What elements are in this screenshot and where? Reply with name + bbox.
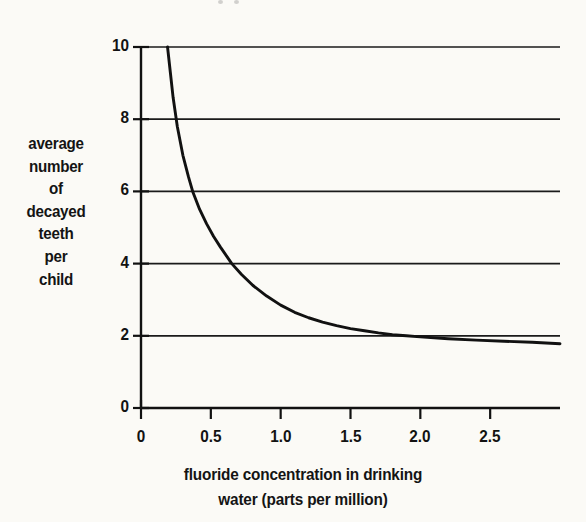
x-tick-label-0: 0: [118, 427, 165, 447]
x-tick-label-2-5: 2.5: [467, 427, 514, 447]
x-tick-label-0-5: 0.5: [187, 427, 234, 447]
x-tick-marks-group: [141, 400, 490, 419]
y-tick-label-4: 4: [93, 253, 129, 273]
gridlines-group: [141, 47, 560, 336]
x-tick-label-1-5: 1.5: [327, 427, 374, 447]
y-tick-label-10: 10: [93, 36, 129, 56]
y-tick-label-0: 0: [93, 397, 129, 417]
y-tick-label-6: 6: [93, 180, 129, 200]
y-tick-label-2: 2: [93, 325, 129, 345]
x-tick-label-2: 2.0: [397, 427, 444, 447]
scan-artifact: [218, 0, 264, 5]
x-tick-label-1: 1.0: [257, 427, 304, 447]
y-tick-label-8: 8: [93, 108, 129, 128]
data-curve: [168, 47, 560, 344]
